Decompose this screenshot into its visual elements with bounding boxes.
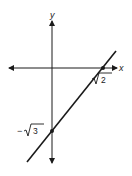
y-intercept-sign: −	[17, 126, 22, 136]
x-axis-label: x	[118, 63, 124, 73]
x-intercept-point	[101, 66, 105, 70]
y-intercept-radicand: 3	[33, 126, 38, 136]
x-intercept-label: 2	[92, 73, 112, 85]
x-intercept-radicand: 2	[101, 75, 106, 85]
y-intercept-point	[50, 129, 54, 133]
coordinate-graph: y x 2 − 3	[0, 0, 132, 176]
y-intercept-label: − 3	[17, 124, 44, 136]
y-axis-label: y	[49, 10, 55, 20]
